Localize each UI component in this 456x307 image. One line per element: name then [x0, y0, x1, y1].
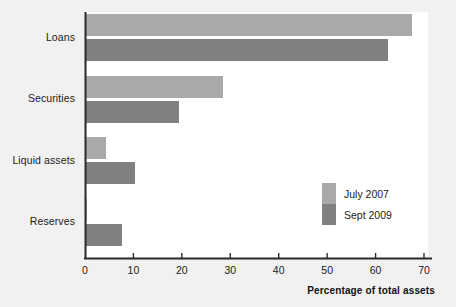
legend-swatch-icon-sept-2009 — [322, 204, 336, 225]
bar-securities-july-2007 — [85, 76, 223, 98]
legend-label-july-2007: July 2007 — [344, 188, 389, 200]
bars-layer — [0, 0, 456, 307]
bar-loans-sept-2009 — [85, 39, 388, 61]
bar-loans-july-2007 — [85, 14, 412, 36]
legend-item-sept-2009: Sept 2009 — [322, 204, 392, 225]
legend-swatch-icon-july-2007 — [322, 183, 336, 204]
bar-liquid-assets-july-2007 — [85, 137, 106, 159]
legend-label-sept-2009: Sept 2009 — [344, 209, 392, 221]
bar-chart: LoansSecuritiesLiquid assetsReserves 010… — [0, 0, 456, 307]
bar-securities-sept-2009 — [85, 101, 179, 123]
legend: July 2007 Sept 2009 — [322, 183, 392, 225]
bar-reserves-july-2007 — [85, 199, 87, 221]
bar-reserves-sept-2009 — [85, 224, 122, 246]
bar-liquid-assets-sept-2009 — [85, 162, 135, 184]
legend-item-july-2007: July 2007 — [322, 183, 392, 204]
